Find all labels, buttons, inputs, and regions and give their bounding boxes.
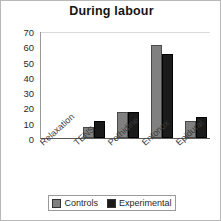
chart-container: During labour 010203040506070 Relaxation…: [0, 0, 221, 221]
legend-entry[interactable]: Experimental: [107, 198, 172, 208]
y-tick-label: 60: [23, 42, 34, 53]
y-tick-label: 20: [23, 103, 34, 114]
y-tick-label: 0: [29, 134, 34, 145]
y-tick-label: 10: [23, 118, 34, 129]
bar-group: [81, 32, 115, 138]
y-tick-label: 50: [23, 57, 34, 68]
legend-label: Controls: [64, 198, 98, 208]
legend-swatch-icon: [52, 199, 61, 208]
y-tick-label: 70: [23, 27, 34, 38]
chart-title: During labour: [1, 4, 221, 18]
legend-label: Experimental: [119, 198, 172, 208]
legend-swatch-icon: [107, 199, 116, 208]
y-tick-label: 30: [23, 88, 34, 99]
chart-legend: ControlsExperimental: [48, 195, 176, 211]
x-axis: RelaxationTENSPethidineEntonoxEpidural: [40, 140, 210, 190]
legend-entry[interactable]: Controls: [52, 198, 98, 208]
y-tick-label: 40: [23, 72, 34, 83]
y-axis: 010203040506070: [1, 32, 37, 139]
